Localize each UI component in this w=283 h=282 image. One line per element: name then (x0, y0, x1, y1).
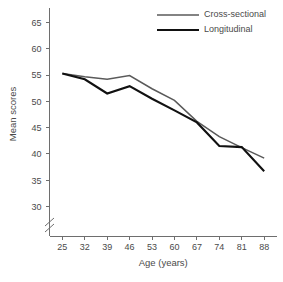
y-tick-label-60: 60 (31, 44, 41, 54)
y-axis-title: Mean scores (7, 87, 18, 142)
legend-label-cross-sectional: Cross-sectional (204, 9, 266, 19)
x-axis-ticks: 25323946536067748188 (57, 236, 269, 252)
series-line-longitudinal (62, 74, 264, 172)
chart-figure: 3035404550556065 25323946536067748188 Me… (0, 0, 283, 282)
x-tick-label-81: 81 (237, 242, 247, 252)
x-tick-label-60: 60 (169, 242, 179, 252)
x-tick-label-32: 32 (80, 242, 90, 252)
y-tick-label-30: 30 (31, 202, 41, 212)
x-tick-label-25: 25 (57, 242, 67, 252)
series-line-cross-sectional (62, 74, 264, 159)
chart-legend: Cross-sectionalLongitudinal (157, 9, 266, 34)
y-tick-label-50: 50 (31, 97, 41, 107)
x-tick-label-74: 74 (214, 242, 224, 252)
x-tick-label-53: 53 (147, 242, 157, 252)
x-axis-title: Age (years) (139, 257, 188, 268)
x-tick-label-67: 67 (192, 242, 202, 252)
x-tick-label-88: 88 (259, 242, 269, 252)
line-chart: 3035404550556065 25323946536067748188 Me… (0, 0, 283, 282)
y-tick-label-65: 65 (31, 18, 41, 28)
x-tick-label-39: 39 (102, 242, 112, 252)
legend-label-longitudinal: Longitudinal (204, 24, 253, 34)
series-lines (62, 74, 264, 172)
x-tick-label-46: 46 (125, 242, 135, 252)
y-tick-label-55: 55 (31, 70, 41, 80)
y-axis-ticks: 3035404550556065 (31, 18, 49, 212)
y-tick-label-40: 40 (31, 149, 41, 159)
y-tick-label-35: 35 (31, 176, 41, 186)
y-tick-label-45: 45 (31, 123, 41, 133)
